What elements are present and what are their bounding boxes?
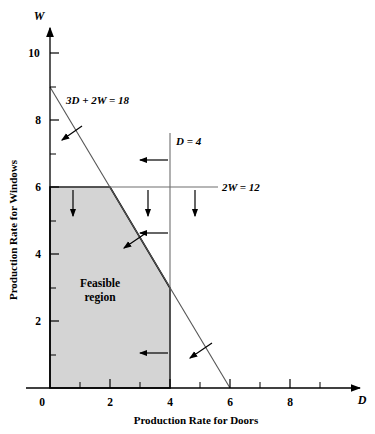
x-tick-label-2: 2 [107,396,113,408]
x-tick-label-6: 6 [227,396,233,408]
constraint-label-3d2w18: 3D + 2W = 18 [65,94,130,106]
y-tick-label-10: 10 [28,47,40,59]
x-tick-label-8: 8 [287,396,293,408]
y-tick-label-2: 2 [35,315,41,327]
feasible-region-label-line2: region [84,291,116,304]
y-tick-label-8: 8 [35,114,41,126]
wyndor-feasible-region-figure: 0 2 4 6 8 2 4 6 8 10 W D Production Rate… [0,0,375,434]
x-axis-title: Production Rate for Doors [134,414,259,426]
x-axis-variable-name: D [357,393,367,407]
x-tick-label-4: 4 [167,396,173,408]
y-tick-label-6: 6 [35,181,41,193]
y-axis-title: Production Rate for Windows [7,159,19,300]
y-axis-variable-name: W [34,9,46,23]
x-tick-label-0: 0 [39,396,45,408]
constraint-label-2w12: 2W = 12 [221,181,260,193]
y-tick-label-4: 4 [35,248,41,260]
constraint-label-d4: D = 4 [175,135,202,147]
feasible-region-label-line1: Feasible [80,277,120,289]
graph-canvas: 0 2 4 6 8 2 4 6 8 10 W D Production Rate… [0,0,375,434]
